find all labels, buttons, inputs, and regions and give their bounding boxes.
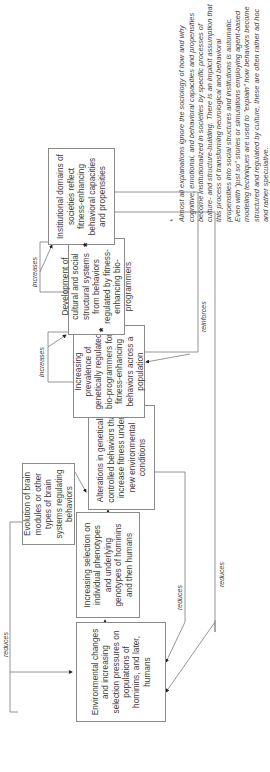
- box-increasing-prevalence: Increasing prevalence of genetically reg…: [73, 325, 145, 418]
- box-text: Environmental changes and increasing sel…: [90, 628, 152, 716]
- asterisk-marker-1: *: [98, 328, 109, 332]
- diagram-canvas: Environmental changes and increasing sel…: [0, 0, 270, 772]
- label-increases-1: increases: [38, 347, 45, 377]
- box-institutional-domains: Institutional domains of societies refle…: [48, 148, 115, 245]
- box-environmental-changes: Environmental changes and increasing sel…: [76, 622, 166, 722]
- box-development: Development of cultural and social struc…: [68, 238, 125, 335]
- label-increases-2: increases: [31, 257, 38, 287]
- box-text: Evolution of brain modules or other type…: [22, 469, 74, 539]
- box-text: Increasing selection on individual pheno…: [82, 518, 134, 612]
- label-reinforces: reinforces: [200, 301, 207, 332]
- box-text: Institutional domains of societies refle…: [55, 154, 107, 239]
- box-increasing-selection: Increasing selection on individual pheno…: [76, 512, 140, 618]
- label-reduces-2: reduces: [218, 562, 225, 587]
- footnote-marker: *: [168, 219, 177, 222]
- footnote-text: Almost all explanations ignore the socio…: [177, 4, 270, 222]
- box-alterations: Alterations in genetically controlled be…: [88, 405, 155, 510]
- label-reduces-top: reduces: [2, 632, 9, 657]
- asterisk-marker-2: *: [82, 243, 93, 247]
- footnote: * Almost all explanations ignore the soc…: [168, 4, 270, 222]
- box-text: Alterations in genetically controlled be…: [95, 411, 147, 504]
- box-text: Increasing prevalence of genetically reg…: [73, 331, 146, 412]
- box-brain-evolution: Evolution of brain modules or other type…: [22, 463, 75, 545]
- label-reduces-1: reduces: [176, 585, 183, 610]
- box-text: Development of cultural and social struc…: [60, 244, 133, 329]
